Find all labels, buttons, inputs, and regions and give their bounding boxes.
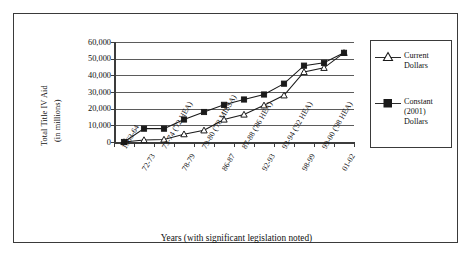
y-tick-label: 10,000 [88, 121, 111, 130]
data-point-marker-square [301, 63, 306, 68]
x-tick-label: 98-99 [300, 152, 317, 172]
filled-square-icon [382, 97, 394, 109]
data-point-marker-square [261, 92, 266, 97]
y-tick-label: 50,000 [88, 54, 111, 63]
chart-legend: Current Dollars Constant (2001) Dollars [370, 40, 452, 148]
legend-label-constant: Constant (2001) Dollars [404, 97, 433, 128]
x-tick-label: 72-73 [140, 152, 157, 172]
data-point-marker-square [341, 50, 346, 55]
x-tick-label: 86-87 [220, 152, 237, 172]
plot-area [114, 42, 354, 142]
x-tick-label: 01-02 [340, 152, 357, 172]
data-point-marker-triangle [241, 111, 247, 117]
data-point-marker-square [281, 81, 286, 86]
data-point-marker-square [201, 109, 206, 114]
series-lines [114, 42, 354, 142]
data-point-marker-square [321, 60, 326, 65]
y-axis-title-line1: Total Title IV Aid [40, 85, 49, 146]
y-tick-label: 30,000 [88, 88, 111, 97]
x-tick-label: 78-79 [180, 152, 197, 172]
x-tick-label: 92-93 [260, 152, 277, 172]
y-axis-title-line2: (in millions) [53, 99, 62, 142]
data-point-marker-square [141, 126, 146, 131]
chart-frame: Total Title IV Aid (in millions) 60,0005… [13, 13, 458, 243]
data-point-marker-square [241, 97, 246, 102]
data-point-marker-square [161, 126, 166, 131]
y-tick-label: 60,000 [88, 38, 111, 47]
x-axis-title: Years (with significant legislation note… [14, 233, 459, 243]
y-axis-tick-labels: 60,00050,00040,00030,00020,00010,0000 [62, 34, 111, 150]
x-axis-tick-labels: 1963-6472-7373-74 ('72 HEA)78-7979-80 ('… [114, 146, 374, 230]
y-tick-label: 20,000 [88, 104, 111, 113]
legend-label-current: Current Dollars [404, 51, 429, 71]
open-triangle-icon [382, 51, 394, 63]
data-point-marker-triangle [201, 127, 207, 133]
y-tick-label: 40,000 [88, 71, 111, 80]
